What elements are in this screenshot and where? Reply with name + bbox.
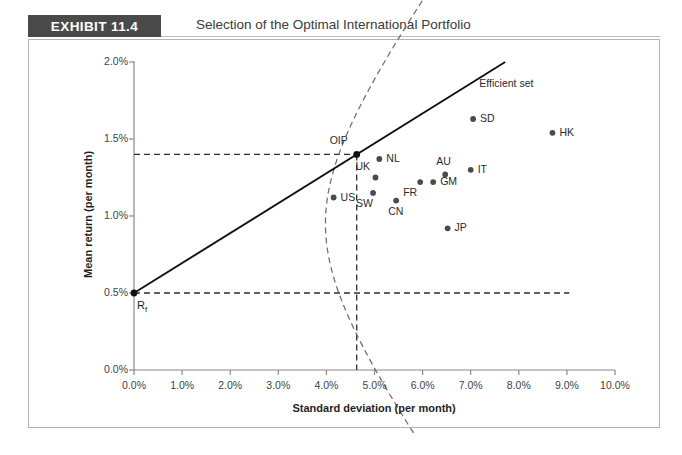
x-axis-title: Standard deviation (per month) — [293, 402, 456, 414]
exhibit-badge: EXHIBIT 11.4 — [28, 15, 161, 37]
y-axis-title: Mean return (per month) — [82, 151, 94, 278]
x-axis-tick-label: 10.0% — [593, 379, 637, 391]
y-axis-tick-label: 1.0% — [90, 209, 128, 221]
y-axis-tick-label: 0.5% — [90, 286, 128, 298]
point-label-au: AU — [436, 155, 451, 167]
point-label-it: IT — [478, 163, 487, 175]
oip-annotation: OIP — [330, 134, 348, 146]
x-axis-tick-label: 2.0% — [208, 379, 252, 391]
point-label-hk: HK — [559, 126, 574, 138]
risk-free-rate-label: Rf — [137, 299, 147, 314]
point-label-jp: JP — [455, 221, 467, 233]
x-axis-tick-label: 8.0% — [497, 379, 541, 391]
x-axis-tick-label: 6.0% — [401, 379, 445, 391]
x-axis-tick-label: 4.0% — [304, 379, 348, 391]
x-axis-tick-label: 9.0% — [545, 379, 589, 391]
x-axis-tick-label: 3.0% — [256, 379, 300, 391]
point-label-fr: FR — [403, 186, 417, 198]
x-axis-tick-label: 0.0% — [112, 379, 156, 391]
point-label-sd: SD — [480, 112, 495, 124]
point-label-gm: GM — [440, 175, 457, 187]
point-label-us: US — [341, 191, 356, 203]
x-axis-tick-label: 7.0% — [449, 379, 493, 391]
point-label-nl: NL — [386, 152, 399, 164]
point-label-sw: SW — [356, 197, 373, 209]
y-axis-tick-label: 2.0% — [90, 55, 128, 67]
exhibit-badge-label: EXHIBIT 11.4 — [51, 19, 138, 34]
x-axis-tick-label: 1.0% — [160, 379, 204, 391]
point-label-uk: UK — [355, 160, 370, 172]
y-axis-tick-label: 1.5% — [90, 132, 128, 144]
y-axis-tick-label: 0.0% — [90, 363, 128, 375]
point-label-cn: CN — [388, 205, 403, 217]
header-divider — [161, 36, 660, 37]
x-axis-tick-label: 5.0% — [353, 379, 397, 391]
efficient-set-annotation: Efficient set — [479, 77, 533, 89]
exhibit-page: EXHIBIT 11.4 Selection of the Optimal In… — [0, 0, 682, 455]
exhibit-title: Selection of the Optimal International P… — [196, 17, 471, 32]
